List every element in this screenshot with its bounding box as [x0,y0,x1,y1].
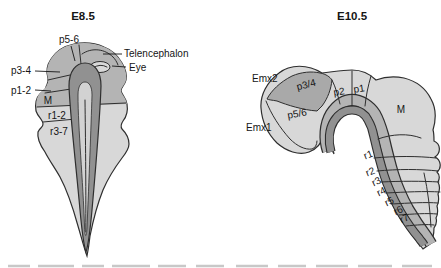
e105-label-p2: p2 [333,85,346,98]
figure-embryonic-brain-stages: E8.5 p5-6 Telencephalon Eye p3-4 p1-2 M [0,0,441,268]
panel-e105: E10.5 Emx2 Emx1 p3/4 p2 p1 M p5/6 [246,10,440,249]
panel-e105-title: E10.5 [337,10,368,22]
e105-label-m: M [397,104,405,115]
e85-label-p5-6: p5-6 [59,34,79,45]
e85-label-eye: Eye [129,62,147,73]
e105-label-p1: p1 [353,82,366,95]
e85-label-r3-7: r3-7 [50,126,68,137]
e105-label-emx1: Emx1 [246,122,272,133]
e105-label-emx2: Emx2 [252,73,278,84]
panel-e85-title: E8.5 [71,10,95,22]
e85-label-r1-2: r1-2 [48,110,66,121]
e85-label-p1-2: p1-2 [11,85,31,96]
e85-label-telencephalon: Telencephalon [124,48,189,59]
panel-e85: E8.5 p5-6 Telencephalon Eye p3-4 p1-2 M [11,10,189,256]
e85-label-m: M [44,95,52,106]
e85-label-p3-4: p3-4 [11,65,31,76]
